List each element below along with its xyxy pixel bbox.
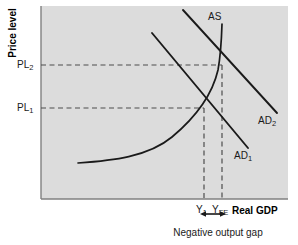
curve-label-as-base: AS: [208, 11, 221, 22]
y-tick-label-pl1-sub: 1: [29, 106, 33, 115]
x-tick-label-y1-base: Y: [196, 204, 203, 215]
x-tick-label-y1: Y1: [196, 205, 207, 215]
x-tick-label-y1-sub: 1: [203, 208, 207, 217]
ad-as-diagram-figure: Price level Real GDP PL2 PL1 Y1 YFE AS A…: [0, 0, 298, 245]
y-tick-label-pl2-sub: 2: [29, 63, 33, 72]
curve-label-ad2-sub: 2: [272, 119, 276, 128]
y-tick-label-pl1: PL1: [17, 103, 33, 113]
x-tick-label-yfe-sub: FE: [219, 208, 229, 217]
curve-label-ad1-base: AD: [234, 150, 248, 161]
y-tick-label-pl1-base: PL: [17, 102, 29, 113]
curve-label-ad2: AD2: [258, 116, 276, 126]
x-tick-label-yfe-base: Y: [212, 204, 219, 215]
x-tick-label-yfe: YFE: [212, 205, 228, 215]
curve-label-ad1-sub: 1: [248, 154, 252, 163]
y-axis-title: Price level: [8, 3, 18, 63]
plot-background: [41, 6, 288, 199]
x-axis-title: Real GDP: [232, 206, 278, 216]
curve-label-as: AS: [208, 12, 221, 22]
y-tick-label-pl2: PL2: [17, 60, 33, 70]
y-tick-label-pl2-base: PL: [17, 59, 29, 70]
curve-label-ad1: AD1: [234, 151, 252, 161]
output-gap-caption: Negative output gap: [148, 228, 288, 238]
curve-label-ad2-base: AD: [258, 115, 272, 126]
